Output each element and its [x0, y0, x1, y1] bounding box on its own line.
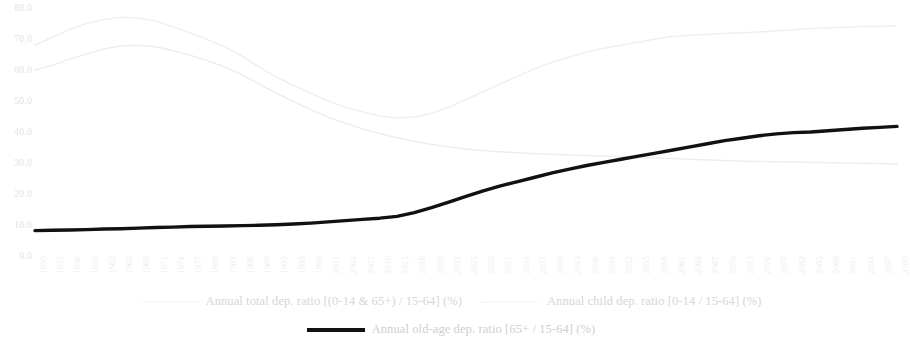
- x-tick-label: 2013: [400, 256, 410, 274]
- x-tick-label: 1980: [210, 256, 220, 274]
- legend-item-total-dep-ratio[interactable]: Annual total dep. ratio [(0-14 & 65+) / …: [141, 294, 462, 309]
- legend-label-total-dep-ratio: Annual total dep. ratio [(0-14 & 65+) / …: [206, 294, 462, 309]
- x-tick-label: 2076: [762, 256, 772, 274]
- x-tick-label: 2070: [728, 256, 738, 274]
- x-tick-label: 1965: [124, 256, 134, 274]
- x-tick-label: 2031: [503, 256, 513, 274]
- x-tick-label: 1983: [228, 256, 238, 274]
- legend-label-old-age-dep-ratio: Annual old-age dep. ratio [65+ / 15-64] …: [372, 322, 596, 337]
- y-tick-label: 10.0: [14, 220, 32, 230]
- x-tick-label: 2049: [607, 256, 617, 274]
- x-tick-label: 2082: [797, 256, 807, 274]
- x-tick-label: 1953: [55, 256, 65, 274]
- x-tick-label: 1986: [245, 256, 255, 274]
- x-tick-label: 2019: [435, 256, 445, 274]
- chart-legend: Annual total dep. ratio [(0-14 & 65+) / …: [0, 294, 902, 350]
- y-tick-label: 30.0: [14, 158, 32, 168]
- x-tick-label: 2022: [452, 256, 462, 274]
- x-tick-label: 1968: [141, 256, 151, 274]
- x-tick-label: 1977: [193, 256, 203, 274]
- x-tick-label: 1995: [297, 256, 307, 274]
- x-tick-label: 2091: [848, 256, 858, 274]
- x-tick-label: 2043: [572, 256, 582, 274]
- solid-line-swatch-icon: [307, 325, 365, 335]
- legend-row-secondary: Annual old-age dep. ratio [65+ / 15-64] …: [0, 322, 902, 337]
- x-tick-label: 1962: [107, 256, 117, 274]
- series-line-2: [35, 126, 897, 230]
- x-tick-label: 2097: [883, 256, 893, 274]
- x-tick-label: 2016: [417, 256, 427, 274]
- x-tick-label: 2061: [676, 256, 686, 274]
- x-tick-label: 1992: [279, 256, 289, 274]
- legend-row-primary: Annual total dep. ratio [(0-14 & 65+) / …: [0, 294, 902, 309]
- x-tick-label: 2058: [659, 256, 669, 274]
- x-tick-label: 2064: [693, 256, 703, 274]
- x-tick-label: 1971: [159, 256, 169, 274]
- x-tick-label: 2052: [624, 256, 634, 274]
- x-tick-label: 2007: [366, 256, 376, 274]
- x-tick-label: 2010: [383, 256, 393, 274]
- x-tick-label: 1998: [314, 256, 324, 274]
- dotted-line-swatch-icon: [141, 297, 199, 307]
- x-tick-label: 2001: [331, 256, 341, 274]
- x-tick-label: 2094: [866, 256, 876, 274]
- y-tick-label: 50.0: [14, 96, 32, 106]
- series-line-0: [35, 17, 897, 118]
- x-tick-label: 1959: [90, 256, 100, 274]
- y-tick-label: 80.0: [14, 3, 32, 13]
- x-tick-label: 2088: [831, 256, 841, 274]
- y-tick-label: 60.0: [14, 65, 32, 75]
- x-axis: 1950195319561959196219651968197119741977…: [35, 256, 897, 296]
- x-tick-label: 2046: [590, 256, 600, 274]
- x-tick-label: 2100: [900, 256, 910, 274]
- x-tick-label: 2025: [469, 256, 479, 274]
- plot-area: [35, 8, 897, 256]
- legend-label-child-dep-ratio: Annual child dep. ratio [0-14 / 15-64] (…: [547, 294, 762, 309]
- dotted-line-swatch-icon: [482, 297, 540, 307]
- y-axis: 80.070.060.050.040.030.020.010.00.0: [0, 0, 35, 260]
- x-tick-label: 2079: [779, 256, 789, 274]
- x-tick-label: 2028: [486, 256, 496, 274]
- x-tick-label: 2055: [641, 256, 651, 274]
- series-line-1: [35, 45, 897, 164]
- x-tick-label: 2004: [348, 256, 358, 274]
- x-tick-label: 1956: [72, 256, 82, 274]
- x-tick-label: 2037: [538, 256, 548, 274]
- x-tick-label: 1950: [38, 256, 48, 274]
- x-tick-label: 2085: [814, 256, 824, 274]
- x-tick-label: 2073: [745, 256, 755, 274]
- x-tick-label: 2067: [710, 256, 720, 274]
- x-tick-label: 2040: [555, 256, 565, 274]
- y-tick-label: 70.0: [14, 34, 32, 44]
- legend-item-old-age-dep-ratio[interactable]: Annual old-age dep. ratio [65+ / 15-64] …: [307, 322, 596, 337]
- y-tick-label: 40.0: [14, 127, 32, 137]
- x-tick-label: 2034: [521, 256, 531, 274]
- x-tick-label: 1989: [262, 256, 272, 274]
- y-tick-label: 0.0: [19, 251, 32, 261]
- y-tick-label: 20.0: [14, 189, 32, 199]
- x-tick-label: 1974: [176, 256, 186, 274]
- plot-svg: [35, 8, 897, 256]
- legend-item-child-dep-ratio[interactable]: Annual child dep. ratio [0-14 / 15-64] (…: [482, 294, 762, 309]
